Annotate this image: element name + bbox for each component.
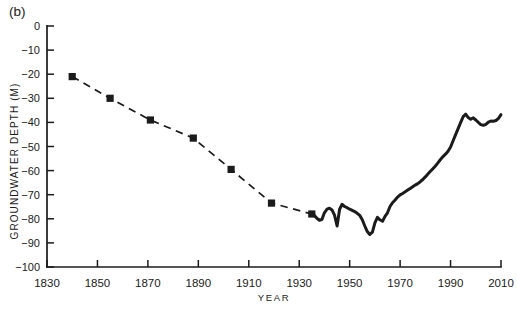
- x-tick-label: 1910: [236, 277, 262, 289]
- x-tick-label: 1850: [85, 277, 111, 289]
- square-data-marker: [107, 95, 114, 102]
- y-axis-ticks: [47, 26, 54, 267]
- x-axis-ticks: [47, 260, 501, 267]
- solid-series: [312, 114, 501, 234]
- y-tick-label: −60: [21, 165, 40, 177]
- y-tick-label: −70: [21, 189, 40, 201]
- x-axis-title: YEAR: [258, 292, 290, 303]
- y-tick-label: −30: [21, 92, 40, 104]
- y-tick-label: 0: [34, 20, 40, 32]
- groundwater-depth-figure: (b) 0−10−20−30−40−50−60−70−80−90−100 183…: [0, 0, 517, 312]
- y-tick-label: −100: [15, 261, 40, 273]
- square-data-marker: [268, 200, 275, 207]
- square-data-marker: [147, 116, 154, 123]
- y-tick-label: −90: [21, 237, 40, 249]
- series-markers: [69, 73, 316, 218]
- square-data-marker: [228, 166, 235, 173]
- x-tick-label: 1870: [135, 277, 161, 289]
- y-tick-label: −80: [21, 213, 40, 225]
- x-tick-label: 1830: [34, 277, 60, 289]
- x-tick-label: 1990: [438, 277, 464, 289]
- x-tick-label: 1890: [186, 277, 212, 289]
- axes: [46, 25, 502, 268]
- y-axis-title: GROUNDWATER DEPTH (M): [9, 83, 20, 240]
- x-tick-label: 2010: [488, 277, 514, 289]
- chart-canvas: 0−10−20−30−40−50−60−70−80−90−100 1830185…: [0, 0, 517, 312]
- x-tick-label: 1930: [286, 277, 312, 289]
- y-tick-label: −20: [21, 68, 40, 80]
- y-tick-label: −50: [21, 141, 40, 153]
- y-tick-label: −40: [21, 116, 40, 128]
- x-tick-label: 1950: [337, 277, 363, 289]
- square-data-marker: [69, 73, 76, 80]
- x-tick-label: 1970: [387, 277, 413, 289]
- square-data-marker: [190, 135, 197, 142]
- solid-series-line: [312, 114, 501, 234]
- square-data-marker: [308, 210, 315, 217]
- x-tick-labels: 1830185018701890191019301950197019902010: [34, 277, 514, 289]
- y-tick-label: −10: [21, 44, 40, 56]
